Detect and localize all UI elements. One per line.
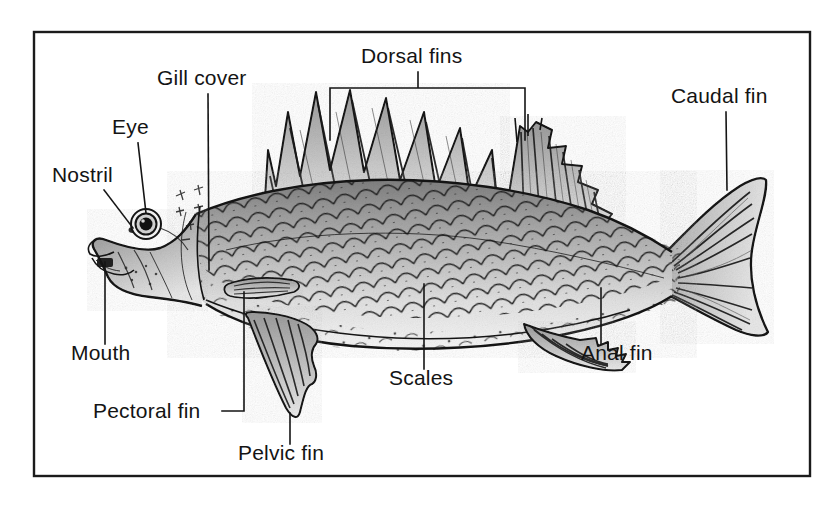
leader-eye	[138, 143, 146, 213]
label-scales: Scales	[389, 366, 453, 389]
label-pelvic-fin: Pelvic fin	[238, 441, 324, 464]
label-eye: Eye	[112, 115, 149, 138]
label-pectoral-fin: Pectoral fin	[93, 399, 200, 422]
diagram-canvas: Nostril Eye Gill cover Dorsal fins Cauda…	[0, 0, 837, 513]
leader-gill-cover	[208, 94, 209, 270]
label-caudal-fin: Caudal fin	[671, 84, 768, 107]
label-dorsal-fins: Dorsal fins	[361, 44, 462, 67]
pelvic-fin	[246, 312, 318, 417]
leader-caudal-fin	[726, 112, 727, 190]
label-anal-fin: Anal fin	[581, 341, 653, 364]
fish-anatomy-figure: Nostril Eye Gill cover Dorsal fins Cauda…	[0, 0, 837, 513]
label-nostril: Nostril	[52, 163, 113, 186]
leader-nostril	[104, 190, 133, 228]
label-gill-cover: Gill cover	[157, 66, 247, 89]
label-mouth: Mouth	[71, 341, 130, 364]
